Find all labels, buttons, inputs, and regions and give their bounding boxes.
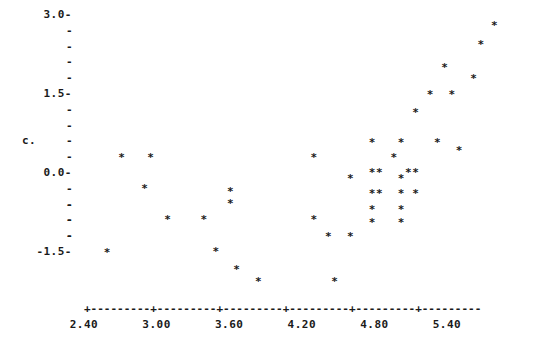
data-point: * xyxy=(376,188,383,199)
data-point: * xyxy=(398,204,405,215)
data-point: * xyxy=(427,89,434,100)
y-minor-tick: - xyxy=(66,120,73,131)
data-point: * xyxy=(398,216,405,227)
x-tick-label: 4.20 xyxy=(272,318,332,331)
data-point: * xyxy=(398,137,405,148)
data-point: * xyxy=(255,276,262,287)
data-point: * xyxy=(398,173,405,184)
data-point: * xyxy=(141,182,148,193)
data-point: * xyxy=(441,61,448,72)
y-minor-tick: - xyxy=(66,72,73,83)
data-point: * xyxy=(104,247,111,258)
y-minor-tick: - xyxy=(66,214,73,225)
scatter-plot-canvas: c. 3.0-----1.5-----0.0------1.5---- +---… xyxy=(0,0,539,349)
x-tick-label: 3.60 xyxy=(199,318,259,331)
data-point: * xyxy=(369,137,376,148)
y-minor-tick: - xyxy=(66,135,73,146)
data-point: * xyxy=(227,185,234,196)
y-minor-tick: - xyxy=(66,56,73,67)
data-point: * xyxy=(311,151,318,162)
y-minor-tick: - xyxy=(66,151,73,162)
data-point: * xyxy=(376,166,383,177)
data-point: * xyxy=(311,213,318,224)
x-tick-label: 2.40 xyxy=(54,318,114,331)
y-minor-tick: - xyxy=(66,104,73,115)
data-point: * xyxy=(369,188,376,199)
data-point: * xyxy=(434,137,441,148)
y-tick-label: 0.0- xyxy=(24,166,72,179)
data-point: * xyxy=(118,151,125,162)
y-minor-tick: - xyxy=(66,41,73,52)
data-point: * xyxy=(347,231,354,242)
data-point: * xyxy=(369,216,376,227)
data-point: * xyxy=(200,213,207,224)
y-tick-label: -1.5- xyxy=(24,245,72,258)
data-point: * xyxy=(478,39,485,50)
data-point: * xyxy=(164,213,171,224)
y-minor-tick: - xyxy=(66,230,73,241)
data-point: * xyxy=(147,151,154,162)
data-point: * xyxy=(412,166,419,177)
data-point: * xyxy=(405,166,412,177)
data-point: * xyxy=(470,73,477,84)
data-point: * xyxy=(398,188,405,199)
data-point: * xyxy=(456,145,463,156)
x-tick-label: 5.40 xyxy=(417,318,477,331)
data-point: * xyxy=(347,173,354,184)
y-minor-tick: - xyxy=(66,199,73,210)
y-tick-label: 3.0- xyxy=(24,8,72,21)
y-minor-tick: - xyxy=(66,183,73,194)
data-point: * xyxy=(412,107,419,118)
data-point: * xyxy=(227,197,234,208)
data-point: * xyxy=(331,276,338,287)
data-point: * xyxy=(369,204,376,215)
x-tick-label: 3.00 xyxy=(127,318,187,331)
data-point: * xyxy=(325,231,332,242)
data-point: * xyxy=(213,245,220,256)
data-point: * xyxy=(233,264,240,275)
y-tick-label: 1.5- xyxy=(24,87,72,100)
data-point: * xyxy=(369,166,376,177)
x-tick-label: 4.80 xyxy=(344,318,404,331)
y-axis-label: c. xyxy=(22,134,36,147)
data-point: * xyxy=(449,89,456,100)
y-minor-tick: - xyxy=(66,25,73,36)
data-point: * xyxy=(491,20,498,31)
data-point: * xyxy=(390,151,397,162)
x-axis-line: +---------+---------+---------+---------… xyxy=(84,303,481,314)
data-point: * xyxy=(412,188,419,199)
